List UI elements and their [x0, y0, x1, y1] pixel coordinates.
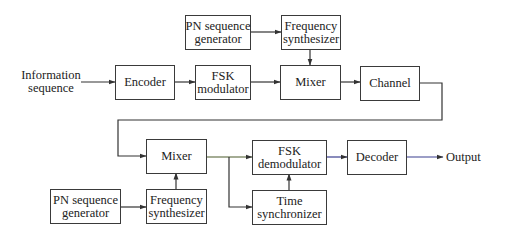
fsk-modulator-block: FSK modulator: [195, 65, 251, 100]
input-label: Information sequence: [18, 69, 84, 95]
block-label: synthesizer: [283, 33, 339, 46]
time-synchronizer-block: Time synchronizer: [252, 190, 327, 225]
fsk-demodulator-block: FSK demodulator: [252, 140, 327, 175]
block-label: FSK: [278, 145, 301, 158]
mixer-tx-block: Mixer: [280, 65, 341, 100]
encoder-block: Encoder: [115, 65, 175, 100]
block-label: Frequency: [285, 20, 338, 33]
block-label: Encoder: [124, 76, 166, 89]
decoder-block: Decoder: [347, 140, 407, 175]
block-label: Decoder: [356, 151, 398, 164]
block-label: synthesizer: [148, 207, 204, 220]
input-label-line2: sequence: [18, 82, 84, 95]
block-diagram: Information sequence PN sequence generat…: [0, 0, 505, 241]
mixer-rx-block: Mixer: [146, 139, 207, 174]
channel-block: Channel: [360, 66, 420, 101]
pn-sequence-generator-tx: PN sequence generator: [185, 15, 251, 50]
block-label: generator: [62, 207, 109, 220]
block-label: Mixer: [295, 76, 326, 89]
block-label: PN sequence: [53, 194, 118, 207]
block-label: Frequency: [150, 194, 203, 207]
block-label: synchronizer: [257, 208, 322, 221]
block-label: demodulator: [258, 158, 321, 171]
block-label: generator: [194, 33, 241, 46]
block-label: PN sequence: [186, 20, 251, 33]
block-label: Time: [277, 195, 303, 208]
block-label: FSK: [212, 70, 235, 83]
pn-sequence-generator-rx: PN sequence generator: [50, 189, 121, 224]
block-label: modulator: [197, 83, 248, 96]
frequency-synthesizer-rx: Frequency synthesizer: [146, 189, 207, 224]
output-label-text: Output: [446, 151, 492, 164]
block-label: Mixer: [161, 150, 192, 163]
arrow-mixer-rx-to-time-sync: [229, 157, 252, 207]
block-label: Channel: [369, 77, 411, 90]
output-label: Output: [446, 151, 492, 164]
frequency-synthesizer-tx: Frequency synthesizer: [281, 15, 341, 50]
